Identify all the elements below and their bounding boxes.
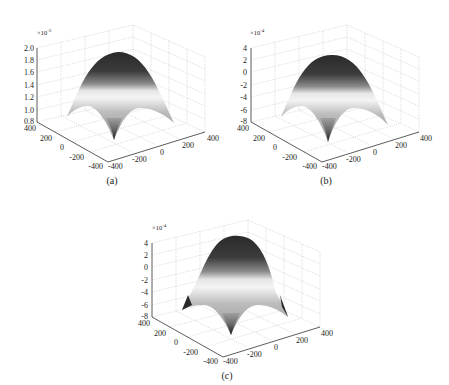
x-tick: 0 <box>274 343 278 352</box>
x-tick: -200 <box>247 350 262 359</box>
x-tick: -200 <box>346 155 361 164</box>
y-tick: 0 <box>174 338 178 347</box>
caption-c: (c) <box>221 370 232 382</box>
y-tick: 200 <box>40 134 52 143</box>
z-tick: -2 <box>240 81 247 90</box>
z-tick: -4 <box>240 93 247 102</box>
z-tick: 4 <box>243 44 247 53</box>
z-tick: 1.4 <box>24 81 34 90</box>
x-tick: 0 <box>160 148 164 157</box>
y-tick: 200 <box>154 329 166 338</box>
x-tick: -200 <box>132 155 147 164</box>
z-tick: 1.8 <box>24 56 34 65</box>
z-tick: 2 <box>144 251 148 260</box>
x-tick: -400 <box>223 357 238 366</box>
z-multiplier: ×10-3 <box>37 28 52 36</box>
panel-c: ×10-4 4 2 0 -2 -4 -6 -8 400 200 0 -200 -… <box>110 195 360 385</box>
z-tick: -6 <box>141 301 148 310</box>
surface-plot-c: ×10-4 4 2 0 -2 -4 -6 -8 400 200 0 -200 -… <box>110 195 360 385</box>
x-tick: 400 <box>321 329 333 338</box>
y-tick: -200 <box>183 348 198 357</box>
z-tick: -2 <box>141 276 148 285</box>
surface-b <box>281 55 388 142</box>
z-tick: 4 <box>144 239 148 248</box>
x-tick: -400 <box>322 162 337 171</box>
caption-a: (a) <box>106 175 117 187</box>
surface-plot-a: ×10-3 2.0 1.8 1.6 1.4 1.2 1.0 0.8 400 20… <box>0 0 225 190</box>
z-tick: -6 <box>240 106 247 115</box>
z-tick: 2.0 <box>24 44 34 53</box>
y-tick: 200 <box>253 134 265 143</box>
z-multiplier: ×10-4 <box>250 28 265 36</box>
y-tick: 400 <box>138 319 150 328</box>
y-tick: 0 <box>273 143 277 152</box>
y-tick: -400 <box>302 162 317 171</box>
z-tick: 1.6 <box>24 68 34 77</box>
surface-plot-b: ×10-4 4 2 0 -2 -4 -6 -8 400 200 0 -200 -… <box>225 0 449 190</box>
x-tick: -400 <box>108 162 123 171</box>
caption-b: (b) <box>320 175 332 187</box>
x-tick: 400 <box>420 134 432 143</box>
y-tick: 400 <box>237 124 249 133</box>
panel-a: ×10-3 2.0 1.8 1.6 1.4 1.2 1.0 0.8 400 20… <box>0 0 225 190</box>
z-tick: 0 <box>243 68 247 77</box>
surface-a <box>67 52 174 140</box>
z-tick: 0 <box>144 263 148 272</box>
y-tick: -200 <box>69 153 84 162</box>
z-tick: 1.2 <box>24 93 34 102</box>
x-tick: 0 <box>373 148 377 157</box>
x-tick: 200 <box>182 141 194 150</box>
x-tick: 400 <box>207 134 219 143</box>
y-tick: -400 <box>88 162 103 171</box>
x-tick: 200 <box>296 336 308 345</box>
y-tick: -400 <box>203 357 218 366</box>
surface-c <box>182 236 288 335</box>
z-tick: 2 <box>243 56 247 65</box>
y-tick: 400 <box>24 124 36 133</box>
x-tick: 200 <box>395 141 407 150</box>
z-tick: 1.0 <box>24 106 34 115</box>
z-tick: -4 <box>141 288 148 297</box>
z-multiplier: ×10-4 <box>152 223 167 231</box>
y-tick: -200 <box>282 153 297 162</box>
y-tick: 0 <box>60 143 64 152</box>
panel-b: ×10-4 4 2 0 -2 -4 -6 -8 400 200 0 -200 -… <box>225 0 449 190</box>
